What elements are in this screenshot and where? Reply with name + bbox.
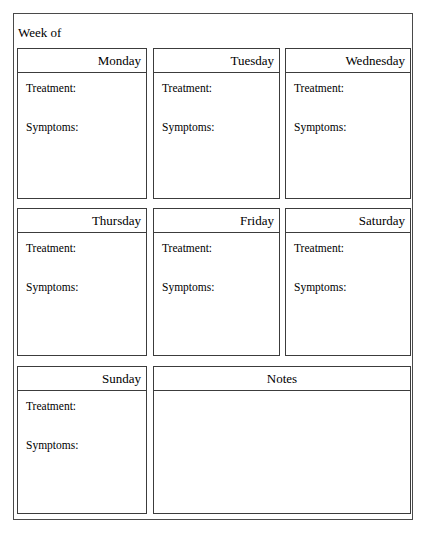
day-title-wednesday: Wednesday (286, 49, 410, 73)
notes-body[interactable] (154, 391, 410, 513)
day-card-monday[interactable]: Monday Treatment: Symptoms: (17, 48, 147, 199)
day-body-monday[interactable]: Treatment: Symptoms: (18, 73, 146, 198)
day-body-thursday[interactable]: Treatment: Symptoms: (18, 233, 146, 355)
notes-title: Notes (154, 367, 410, 391)
symptoms-label-monday: Symptoms: (26, 121, 78, 134)
day-body-saturday[interactable]: Treatment: Symptoms: (286, 233, 410, 355)
day-card-thursday[interactable]: Thursday Treatment: Symptoms: (17, 208, 147, 356)
symptoms-label-thursday: Symptoms: (26, 281, 78, 294)
treatment-label-saturday: Treatment: (294, 242, 344, 255)
day-body-friday[interactable]: Treatment: Symptoms: (154, 233, 279, 355)
notes-card[interactable]: Notes (153, 366, 411, 514)
day-title-sunday: Sunday (18, 367, 146, 391)
symptoms-label-sunday: Symptoms: (26, 439, 78, 452)
day-body-wednesday[interactable]: Treatment: Symptoms: (286, 73, 410, 198)
day-card-saturday[interactable]: Saturday Treatment: Symptoms: (285, 208, 411, 356)
day-card-sunday[interactable]: Sunday Treatment: Symptoms: (17, 366, 147, 514)
day-title-friday: Friday (154, 209, 279, 233)
week-of-label: Week of (18, 25, 61, 40)
day-body-sunday[interactable]: Treatment: Symptoms: (18, 391, 146, 513)
week-of-heading[interactable]: Week of (18, 20, 408, 46)
treatment-label-thursday: Treatment: (26, 242, 76, 255)
day-title-saturday: Saturday (286, 209, 410, 233)
symptoms-label-saturday: Symptoms: (294, 281, 346, 294)
day-card-tuesday[interactable]: Tuesday Treatment: Symptoms: (153, 48, 280, 199)
symptoms-label-tuesday: Symptoms: (162, 121, 214, 134)
day-title-monday: Monday (18, 49, 146, 73)
worksheet-page: Week of Monday Treatment: Symptoms: Tues… (13, 13, 413, 520)
treatment-label-sunday: Treatment: (26, 400, 76, 413)
symptoms-label-friday: Symptoms: (162, 281, 214, 294)
treatment-label-monday: Treatment: (26, 82, 76, 95)
treatment-label-tuesday: Treatment: (162, 82, 212, 95)
treatment-label-wednesday: Treatment: (294, 82, 344, 95)
day-card-wednesday[interactable]: Wednesday Treatment: Symptoms: (285, 48, 411, 199)
day-body-tuesday[interactable]: Treatment: Symptoms: (154, 73, 279, 198)
day-title-thursday: Thursday (18, 209, 146, 233)
day-title-tuesday: Tuesday (154, 49, 279, 73)
treatment-label-friday: Treatment: (162, 242, 212, 255)
day-card-friday[interactable]: Friday Treatment: Symptoms: (153, 208, 280, 356)
symptoms-label-wednesday: Symptoms: (294, 121, 346, 134)
